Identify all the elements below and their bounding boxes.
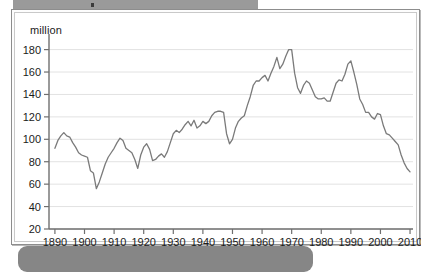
y-tick-label: 60: [29, 178, 41, 190]
x-tick-label: 1990: [339, 236, 363, 246]
y-tick-label: 160: [23, 66, 41, 78]
x-tick-label: 2010: [398, 236, 421, 246]
x-tick-label: 1950: [220, 236, 244, 246]
y-axis-ticks-group: 20406080100120140160180: [23, 44, 49, 235]
x-tick-label: 1970: [279, 236, 303, 246]
y-tick-label: 120: [23, 111, 41, 123]
banner-marker-icon: [91, 3, 94, 7]
chart-frame: million 20406080100120140160180 18901900…: [11, 9, 420, 245]
x-tick-label: 1890: [43, 236, 67, 246]
x-tick-label: 1930: [161, 236, 185, 246]
x-tick-label: 1920: [131, 236, 155, 246]
y-tick-label: 80: [29, 156, 41, 168]
y-tick-label: 20: [29, 223, 41, 235]
x-tick-label: 1910: [102, 236, 126, 246]
x-tick-label: 1980: [309, 236, 333, 246]
bottom-banner-strip: [18, 246, 313, 272]
line-chart-plot: 20406080100120140160180 1890190019101920…: [12, 10, 421, 246]
x-tick-label: 1900: [72, 236, 96, 246]
x-tick-label: 1940: [191, 236, 215, 246]
x-tick-label: 2000: [368, 236, 392, 246]
gridlines-group: [49, 50, 413, 229]
data-series-line: [55, 50, 410, 189]
y-tick-label: 40: [29, 201, 41, 213]
y-tick-label: 140: [23, 88, 41, 100]
y-tick-label: 100: [23, 133, 41, 145]
y-tick-label: 180: [23, 44, 41, 56]
x-axis-ticks-group: 1890190019101920193019401950196019701980…: [43, 229, 421, 246]
x-tick-label: 1960: [250, 236, 274, 246]
